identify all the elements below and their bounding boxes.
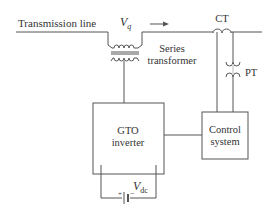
- transmission-line-left: [16, 32, 112, 48]
- vdc-label: Vdc: [133, 179, 148, 195]
- battery-minus-label: −: [130, 189, 135, 198]
- series-transformer-label-line2: transformer: [148, 55, 197, 66]
- dc-source-icon: [101, 165, 156, 204]
- pt-icon: [226, 32, 240, 112]
- series-transformer-icon: [111, 45, 139, 103]
- control-label-line1: Control: [209, 124, 241, 135]
- transmission-line-right: [138, 32, 262, 48]
- current-direction-arrow-icon: [150, 22, 169, 27]
- gto-label-line2: inverter: [112, 137, 145, 148]
- series-transformer-label-line1: Series: [159, 43, 185, 54]
- pt-label: PT: [245, 67, 258, 78]
- sssc-diagram: Transmission line Vq Series transformer …: [0, 0, 270, 214]
- ct-label: CT: [215, 13, 229, 24]
- ct-icon: [213, 29, 231, 112]
- control-label-line2: system: [210, 136, 239, 147]
- gto-label-line1: GTO: [117, 125, 139, 136]
- transmission-line-label: Transmission line: [18, 17, 96, 29]
- battery-plus-label: +: [118, 190, 122, 198]
- vq-label: Vq: [120, 15, 131, 31]
